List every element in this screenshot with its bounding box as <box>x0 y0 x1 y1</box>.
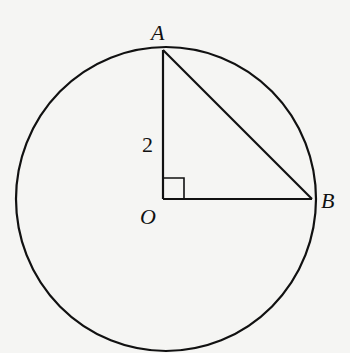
right-angle-marker <box>163 178 184 199</box>
label-A: A <box>149 20 165 45</box>
label-side-AO: 2 <box>142 132 153 157</box>
geometry-diagram: A O B 2 <box>0 0 350 353</box>
segment-AB <box>163 50 312 199</box>
diagram-canvas: A O B 2 <box>0 0 350 353</box>
label-O: O <box>140 204 156 229</box>
label-B: B <box>321 188 334 213</box>
